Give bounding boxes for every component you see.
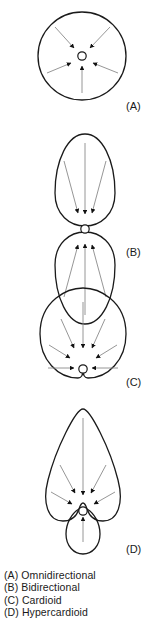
panel-label-c: (C)	[126, 376, 141, 388]
capsule-d	[79, 507, 87, 515]
figure-caption: (A) Omnidirectional (B) Bidirectional (C…	[4, 569, 166, 619]
caption-line-d: (D) Hypercardioid	[4, 606, 166, 618]
panel-a-omnidirectional: (A)	[38, 12, 141, 112]
hypercardioid-arrows	[51, 418, 115, 542]
panel-d-hypercardioid: (D)	[46, 409, 142, 555]
panel-c-cardioid: (C)	[40, 288, 141, 388]
panel-label-a: (A)	[126, 100, 141, 112]
panel-b-bidirectional: (B)	[55, 134, 141, 324]
capsule-b	[81, 225, 89, 233]
caption-line-b: (B) Bidirectional	[4, 581, 166, 593]
caption-line-c: (C) Cardioid	[4, 594, 166, 606]
panel-label-b: (B)	[126, 246, 141, 258]
capsule-c	[79, 365, 87, 373]
cardioid-arrows	[48, 302, 118, 368]
capsule-a	[78, 52, 86, 60]
caption-line-a: (A) Omnidirectional	[4, 569, 166, 581]
panel-label-d: (D)	[126, 543, 141, 555]
